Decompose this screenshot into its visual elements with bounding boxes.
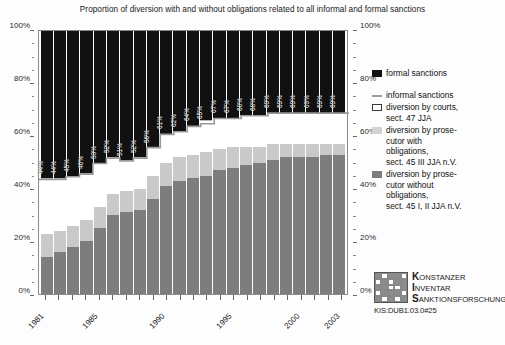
- legend-label-line: sect. 47 JJA: [386, 113, 458, 124]
- bar-stack: [107, 31, 119, 294]
- legend-item-prosecutor-without-obligations: diversion by prose- cutor without obliga…: [372, 169, 505, 211]
- bar-column[interactable]: 69%: [306, 31, 318, 294]
- x-tick-label: 2000: [282, 312, 301, 331]
- kis-logo-line-3: SANKTIONSFORSCHUNG: [412, 294, 505, 305]
- bar-value-label: 69%: [302, 95, 309, 108]
- legend-label-line: diversion by courts,: [386, 102, 458, 113]
- y-minor-tick: [32, 255, 35, 256]
- bar-segment: [173, 131, 185, 157]
- bar-column[interactable]: 46%: [80, 31, 92, 294]
- kis-word-konstanzer: ONSTANZER: [419, 273, 465, 282]
- bar-segment: [213, 149, 225, 170]
- bar-segment: [253, 163, 265, 295]
- y-minor-tick: [353, 70, 356, 71]
- bar-segment: [187, 155, 199, 179]
- kis-logo-block: KONSTANZER INVENTAR SANKTIONSFORSCHUNG K…: [374, 272, 502, 315]
- x-tick-mark: [301, 295, 302, 300]
- x-tick-mark: [112, 295, 113, 300]
- y-minor-tick: [353, 149, 356, 150]
- y-tick-mark: [30, 242, 34, 243]
- bar-segment: [120, 160, 132, 192]
- y-minor-tick: [353, 163, 356, 164]
- bar-column[interactable]: 69%: [293, 31, 305, 294]
- bar-column[interactable]: 51%: [120, 31, 132, 294]
- bar-value-label: 52%: [129, 140, 136, 153]
- bar-column[interactable]: 68%: [253, 31, 265, 294]
- bar-column[interactable]: 50%: [94, 31, 106, 294]
- legend-item-diversion-by-courts: diversion by courts, sect. 47 JJA: [372, 102, 505, 123]
- bar-value-label: 69%: [315, 95, 322, 108]
- bar-column[interactable]: 68%: [240, 31, 252, 294]
- plot-area: 44%44%45%46%50%52%51%52%56%61%62%64%65%6…: [38, 30, 348, 295]
- bar-value-label: 51%: [116, 143, 123, 156]
- bar-column[interactable]: 61%: [160, 31, 172, 294]
- legend-label-line: sect. 45 III JJA n.V.: [386, 157, 457, 168]
- legend-label-line: cutor without: [386, 180, 462, 191]
- y-tick-mark: [30, 83, 34, 84]
- bar-stack: [333, 31, 345, 294]
- bar-segment: [213, 118, 225, 150]
- bar-value-label: 62%: [169, 114, 176, 127]
- bar-column[interactable]: 67%: [213, 31, 225, 294]
- bar-column[interactable]: 69%: [280, 31, 292, 294]
- bar-column[interactable]: 56%: [147, 31, 159, 294]
- x-tick-mark: [247, 295, 248, 300]
- bar-segment: [80, 173, 92, 220]
- bar-column[interactable]: 69%: [333, 31, 345, 294]
- bar-value-label: 44%: [49, 162, 56, 175]
- bar-segment: [293, 113, 305, 145]
- y-minor-tick: [32, 269, 35, 270]
- legend-label-line: obligations,: [386, 146, 457, 157]
- legend-label-line: diversion by prose-: [386, 125, 457, 136]
- chart-title: Proportion of diversion with and without…: [0, 5, 505, 14]
- bar-segment: [267, 144, 279, 160]
- bar-stack: [320, 31, 332, 294]
- bar-segment: [200, 152, 212, 176]
- bar-segment: [227, 168, 239, 294]
- bar-column[interactable]: 69%: [267, 31, 279, 294]
- x-tick-label: 1985: [80, 312, 99, 331]
- bar-value-label: 65%: [196, 106, 203, 119]
- bar-column[interactable]: 64%: [187, 31, 199, 294]
- kis-logo-text: KONSTANZER INVENTAR SANKTIONSFORSCHUNG: [412, 272, 505, 305]
- bar-column[interactable]: 69%: [320, 31, 332, 294]
- bar-segment: [213, 170, 225, 294]
- bar-stack: [280, 31, 292, 294]
- bar-segment: [147, 176, 159, 200]
- bar-segment: [54, 231, 66, 252]
- bar-column[interactable]: 67%: [227, 31, 239, 294]
- bar-segment: [80, 241, 92, 294]
- bar-segment: [94, 228, 106, 294]
- bar-segment: [160, 186, 172, 294]
- bar-segment: [107, 157, 119, 194]
- bar-segment: [280, 113, 292, 145]
- bar-stack: [240, 31, 252, 294]
- bar-stack: [120, 31, 132, 294]
- y-tick-mark: [353, 189, 357, 190]
- bar-segment: [147, 147, 159, 176]
- bar-value-label: 68%: [236, 98, 243, 111]
- y-minor-tick: [32, 216, 35, 217]
- y-tick-mark: [353, 242, 357, 243]
- bar-segment: [293, 157, 305, 294]
- bar-segment: [120, 191, 132, 212]
- bar-column[interactable]: 52%: [134, 31, 146, 294]
- bar-column[interactable]: 62%: [173, 31, 185, 294]
- bar-segment: [267, 113, 279, 145]
- kis-logo-line-2: INVENTAR: [412, 283, 505, 294]
- bar-segment: [333, 144, 345, 155]
- white-square-icon: [372, 104, 382, 111]
- bar-segment: [107, 194, 119, 215]
- bar-column[interactable]: 52%: [107, 31, 119, 294]
- bar-segment: [147, 199, 159, 294]
- bar-value-label: 69%: [262, 95, 269, 108]
- bar-value-label: 56%: [143, 130, 150, 143]
- bar-column[interactable]: 65%: [200, 31, 212, 294]
- x-tick-mark: [126, 295, 127, 300]
- gray-line-icon: [372, 95, 382, 97]
- bar-stack: [187, 31, 199, 294]
- y-minor-tick: [32, 282, 35, 283]
- y-minor-tick: [32, 149, 35, 150]
- x-tick-mark: [72, 295, 73, 300]
- bar-stack: [253, 31, 265, 294]
